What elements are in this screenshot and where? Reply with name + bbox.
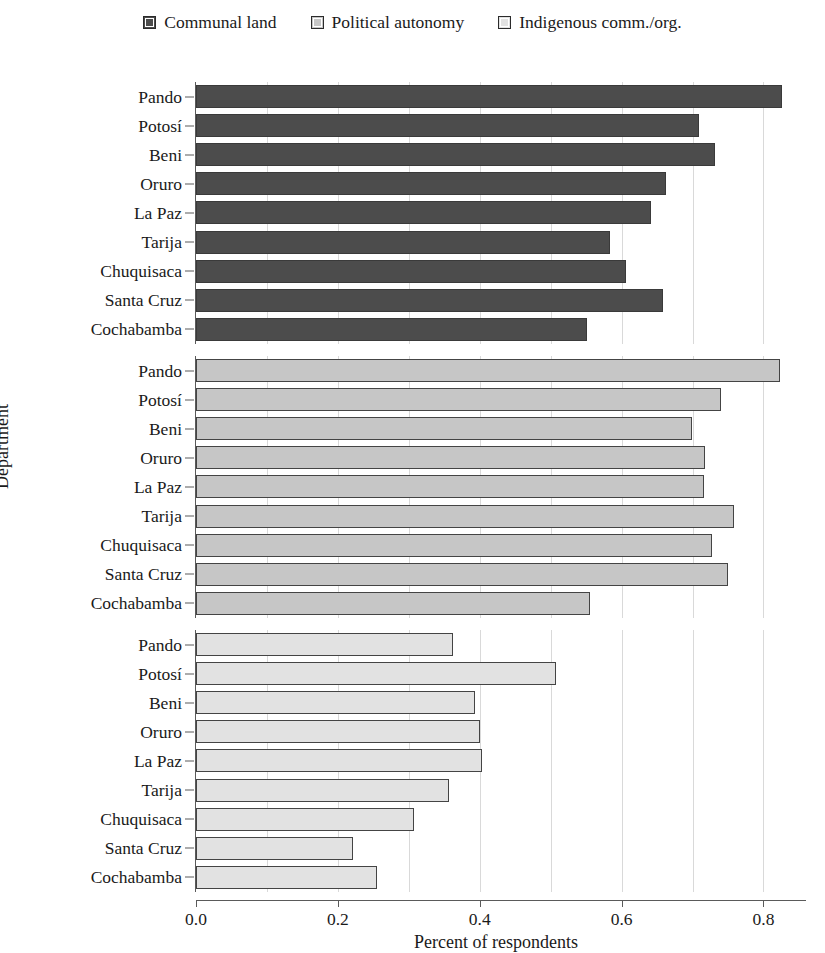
y-tick-label: Potosí <box>138 115 182 136</box>
y-tick-mark <box>185 154 194 155</box>
bar-row: Tarija <box>196 502 806 531</box>
y-tick-label: Potosí <box>138 663 182 684</box>
y-tick-mark <box>185 428 194 429</box>
y-tick-mark <box>185 877 194 878</box>
y-tick-mark <box>185 329 194 330</box>
bar <box>196 85 782 108</box>
bar-row: Beni <box>196 140 806 169</box>
y-tick-label: Santa Cruz <box>105 564 182 585</box>
y-tick-mark <box>185 819 194 820</box>
bar <box>196 260 626 283</box>
legend-label: Political autonomy <box>332 12 465 33</box>
bar-row: Beni <box>196 688 806 717</box>
bar-row: La Paz <box>196 746 806 775</box>
bar-row: Potosí <box>196 385 806 414</box>
y-tick-label: La Paz <box>134 202 182 223</box>
y-tick-label: Santa Cruz <box>105 290 182 311</box>
x-tick-mark <box>480 900 481 907</box>
y-tick-label: Tarija <box>141 780 182 801</box>
y-tick-mark <box>185 457 194 458</box>
y-tick-mark <box>185 399 194 400</box>
bar <box>196 662 556 685</box>
y-tick-mark <box>185 486 194 487</box>
y-tick-label: Oruro <box>140 447 182 468</box>
bar-rows: PandoPotosíBeniOruroLa PazTarijaChuquisa… <box>196 356 806 618</box>
x-tick-mark <box>196 900 197 907</box>
bar <box>196 837 353 860</box>
y-tick-label: Cochabamba <box>91 867 182 888</box>
y-tick-mark <box>185 271 194 272</box>
panel-communal-land: PandoPotosíBeniOruroLa PazTarijaChuquisa… <box>196 82 806 344</box>
y-tick-label: Tarija <box>141 506 182 527</box>
bar <box>196 388 721 411</box>
y-tick-label: Chuquisaca <box>100 535 182 556</box>
y-tick-label: Santa Cruz <box>105 838 182 859</box>
y-tick-label: Pando <box>138 360 182 381</box>
bar-row: Chuquisaca <box>196 257 806 286</box>
bar-row: Pando <box>196 630 806 659</box>
x-tick-mark <box>622 900 623 907</box>
bar-row: La Paz <box>196 472 806 501</box>
bar-row: Pando <box>196 82 806 111</box>
x-tick-label: 0.6 <box>611 909 633 930</box>
y-axis-title: Department <box>0 404 13 489</box>
bar <box>196 592 590 615</box>
bar <box>196 691 475 714</box>
bar <box>196 359 780 382</box>
legend-swatch-icon <box>311 16 324 29</box>
y-tick-label: Potosí <box>138 389 182 410</box>
y-tick-mark <box>185 212 194 213</box>
bar <box>196 808 414 831</box>
y-tick-label: Oruro <box>140 173 182 194</box>
bar-row: Beni <box>196 414 806 443</box>
bar <box>196 318 587 341</box>
legend-swatch-icon <box>498 16 511 29</box>
bar-row: Oruro <box>196 717 806 746</box>
y-tick-mark <box>185 760 194 761</box>
bar <box>196 446 705 469</box>
y-tick-mark <box>185 545 194 546</box>
panel-indigenous-comm-org: PandoPotosíBeniOruroLa PazTarijaChuquisa… <box>196 630 806 892</box>
legend-swatch-icon <box>143 16 156 29</box>
y-tick-label: Cochabamba <box>91 319 182 340</box>
bar-row: Tarija <box>196 228 806 257</box>
bar <box>196 779 449 802</box>
bar <box>196 534 712 557</box>
y-tick-mark <box>185 96 194 97</box>
bar-row: Cochabamba <box>196 863 806 892</box>
y-tick-label: La Paz <box>134 750 182 771</box>
bar-row: Santa Cruz <box>196 834 806 863</box>
bar-row: Tarija <box>196 776 806 805</box>
legend-item: Political autonomy <box>311 12 465 33</box>
bar <box>196 475 704 498</box>
bar-row: Cochabamba <box>196 589 806 618</box>
bar-rows: PandoPotosíBeniOruroLa PazTarijaChuquisa… <box>196 630 806 892</box>
legend-item: Communal land <box>143 12 276 33</box>
legend-label: Indigenous comm./org. <box>519 12 682 33</box>
bar <box>196 143 715 166</box>
legend-label: Communal land <box>164 12 276 33</box>
bar <box>196 749 482 772</box>
panel-political-autonomy: PandoPotosíBeniOruroLa PazTarijaChuquisa… <box>196 356 806 618</box>
bar <box>196 633 453 656</box>
y-tick-label: Beni <box>149 418 182 439</box>
y-tick-mark <box>185 183 194 184</box>
legend-item: Indigenous comm./org. <box>498 12 682 33</box>
y-tick-mark <box>185 673 194 674</box>
bar <box>196 172 666 195</box>
y-tick-mark <box>185 574 194 575</box>
bar <box>196 417 692 440</box>
y-tick-label: Pando <box>138 634 182 655</box>
bar-row: Oruro <box>196 169 806 198</box>
bar <box>196 201 651 224</box>
y-tick-mark <box>185 370 194 371</box>
y-tick-label: Beni <box>149 692 182 713</box>
bar-row: Cochabamba <box>196 315 806 344</box>
y-tick-label: Chuquisaca <box>100 809 182 830</box>
bar <box>196 289 663 312</box>
y-tick-label: Chuquisaca <box>100 261 182 282</box>
y-tick-mark <box>185 702 194 703</box>
chart-legend: Communal landPolitical autonomyIndigenou… <box>0 0 825 38</box>
y-tick-label: La Paz <box>134 476 182 497</box>
bar-row: Potosí <box>196 111 806 140</box>
